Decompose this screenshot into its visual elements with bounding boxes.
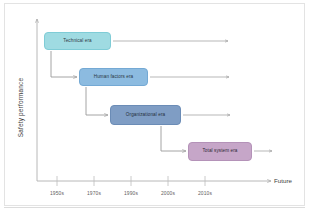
era-box-technical[interactable]: Technical era (44, 32, 111, 50)
x-tick-label-1950s: 1950s (50, 191, 64, 196)
x-tick-label-2010s: 2010s (198, 191, 212, 196)
x-axis (37, 176, 271, 186)
era-label-organizational: Organizational era (111, 113, 180, 118)
era-continuation-arrows (113, 41, 272, 151)
era-label-total-system: Total system era (189, 149, 251, 154)
connector-organizational-to-total-system (161, 126, 186, 151)
y-axis-label: Safety performance (17, 60, 24, 156)
era-label-technical: Technical era (45, 39, 110, 44)
era-elbow-connectors (51, 51, 186, 151)
x-tick-label-1990s: 1990s (124, 191, 138, 196)
era-box-human-factors[interactable]: Human factors era (79, 68, 148, 86)
x-tick-label-2000s: 2000s (161, 191, 175, 196)
era-label-human-factors: Human factors era (80, 75, 147, 80)
x-tick-label-1970s: 1970s (87, 191, 101, 196)
era-box-organizational[interactable]: Organizational era (110, 105, 181, 125)
safety-era-timeline-figure: Technical era Human factors era Organiza… (0, 0, 309, 214)
era-box-total-system[interactable]: Total system era (188, 142, 252, 161)
connector-technical-to-human-factors (51, 51, 77, 77)
connector-human-factors-to-organizational (86, 87, 108, 115)
x-axis-future-label: Future (274, 177, 292, 184)
